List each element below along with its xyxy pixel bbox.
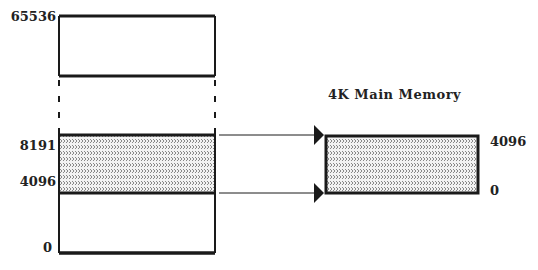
memory-map-diagram	[0, 0, 538, 270]
address-space-gap-dashes	[59, 80, 215, 128]
label-main-memory-0: 0	[490, 184, 499, 197]
address-space-top-block	[59, 16, 215, 76]
label-address-0: 0	[4, 241, 52, 254]
address-space-mapped-block	[59, 135, 215, 193]
mapping-arrow-bottom	[219, 183, 324, 203]
main-memory-title: 4K Main Memory	[328, 87, 461, 102]
mapping-arrow-top	[219, 125, 324, 145]
label-address-4096: 4096	[4, 175, 56, 188]
label-main-memory-4096: 4096	[490, 135, 526, 148]
label-address-65536: 65536	[4, 10, 56, 23]
label-address-8191: 8191	[4, 139, 56, 152]
main-memory-block	[326, 136, 478, 193]
